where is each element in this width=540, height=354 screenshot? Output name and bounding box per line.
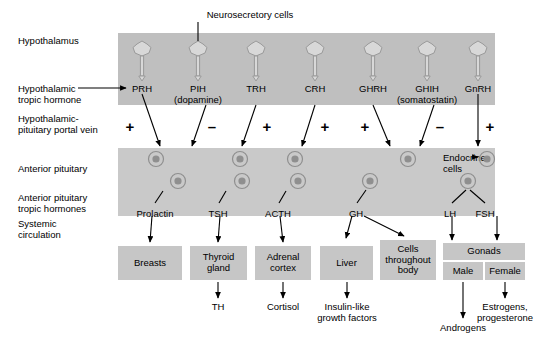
arrow-crh-to-pituitary (302, 105, 315, 146)
tick-acth (279, 191, 286, 203)
arrow-prolactin-to-breasts (150, 216, 152, 242)
arrow-tsh-to-thyroid (218, 216, 220, 242)
arrow-prh-to-pituitary (142, 94, 160, 146)
diagram-canvas: Hypothalamus Hypothalamic tropic hormone… (0, 0, 540, 354)
arrow-gh-to-cells (364, 216, 404, 236)
arrow-pih-to-pituitary (192, 105, 206, 146)
arrow-acth-to-adrenal (280, 216, 283, 242)
arrow-ghrh-to-pituitary (373, 105, 390, 146)
tick-fsh (470, 190, 485, 203)
tick-gh (357, 190, 366, 203)
tick-prolactin (155, 191, 163, 203)
arrow-ghih-to-pituitary (420, 105, 434, 146)
connector-layer (0, 0, 540, 354)
tick-lh (452, 190, 466, 203)
tick-tsh (219, 191, 226, 203)
arrow-gh-to-liver (346, 216, 352, 238)
arrow-trh-to-pituitary (242, 105, 256, 146)
endocrine-cell (149, 152, 495, 189)
neurosecretory-cell (133, 41, 487, 81)
